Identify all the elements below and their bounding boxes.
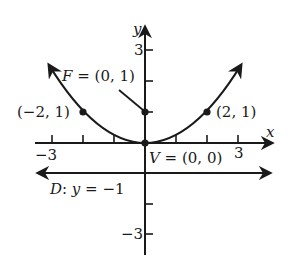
left-point	[79, 108, 86, 115]
left-point-label: (−2, 1)	[17, 103, 70, 121]
x-tick-label-neg: −3	[35, 146, 57, 164]
focus-point	[141, 108, 148, 115]
y-axis-label: y	[132, 20, 142, 38]
x-tick-label-pos: 3	[234, 144, 244, 162]
right-point	[203, 108, 210, 115]
parabola-figure: y x 3 −3 −3 3 F = (0, 1) (−2, 1) (2, 1) …	[0, 0, 288, 259]
right-point-label: (2, 1)	[216, 103, 256, 121]
vertex-point	[141, 139, 148, 146]
focus-leader-line	[119, 90, 143, 110]
directrix-label: D: y = −1	[49, 180, 125, 198]
vertex-label: V = (0, 0)	[149, 149, 222, 167]
y-tick-label-neg: −3	[121, 225, 143, 243]
y-tick-label-pos: 3	[134, 41, 144, 59]
focus-label: F = (0, 1)	[61, 67, 135, 85]
x-axis-label: x	[266, 123, 275, 141]
